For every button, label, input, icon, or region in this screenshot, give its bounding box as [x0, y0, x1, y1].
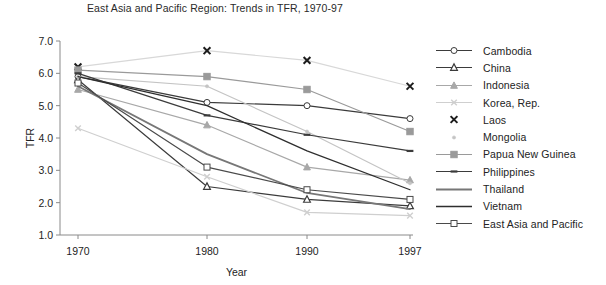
x-tick-label: 1990	[295, 245, 319, 257]
y-tick-label: 2.0	[38, 197, 53, 209]
legend-label: Philippines	[476, 166, 535, 178]
legend-marker-icon	[432, 111, 476, 128]
legend-marker-icon	[432, 59, 476, 76]
x-tick-label: 1997	[398, 245, 422, 257]
legend-label: Mongolia	[476, 131, 526, 143]
legend-label: Cambodia	[476, 45, 532, 57]
chart-figure: East Asia and Pacific Region: Trends in …	[0, 0, 606, 285]
legend-marker-icon	[432, 181, 476, 198]
legend-marker-icon	[432, 215, 476, 232]
legend-item-thailand[interactable]: Thailand	[432, 180, 604, 197]
series-china	[75, 76, 414, 209]
legend-item-mongolia[interactable]: Mongolia	[432, 128, 604, 145]
legend-item-cambodia[interactable]: Cambodia	[432, 42, 604, 59]
legend-label: China	[476, 62, 511, 74]
legend-marker-icon	[432, 42, 476, 59]
y-axis-title: TFR	[24, 127, 36, 148]
x-axis-title: Year	[226, 266, 248, 278]
legend-label: Korea, Rep.	[476, 97, 540, 109]
legend-label: Indonesia	[476, 79, 529, 91]
legend-item-east-asia-and-pacific[interactable]: East Asia and Pacific	[432, 215, 604, 232]
legend-marker-icon	[432, 198, 476, 215]
legend-label: East Asia and Pacific	[476, 218, 583, 230]
legend-marker-icon	[432, 77, 476, 94]
legend-label: Laos	[476, 114, 506, 126]
legend-item-laos[interactable]: Laos	[432, 111, 604, 128]
legend-item-korea-rep[interactable]: Korea, Rep.	[432, 94, 604, 111]
data-series-layer	[75, 47, 414, 218]
series-vietnam	[78, 77, 410, 190]
series-laos	[75, 47, 414, 89]
legend-marker-icon	[432, 163, 476, 180]
legend-item-papua-new-guinea[interactable]: Papua New Guinea	[432, 146, 604, 163]
y-tick-label: 5.0	[38, 100, 53, 112]
legend-item-vietnam[interactable]: Vietnam	[432, 198, 604, 215]
legend-item-philippines[interactable]: Philippines	[432, 163, 604, 180]
legend-label: Thailand	[476, 183, 524, 195]
x-tick-label: 1970	[66, 245, 90, 257]
y-tick-label: 3.0	[38, 164, 53, 176]
x-tick-label: 1980	[195, 245, 219, 257]
axes: 1.02.03.04.05.06.07.01970198019901997	[38, 35, 421, 257]
legend-label: Vietnam	[476, 200, 522, 212]
legend-label: Papua New Guinea	[476, 148, 576, 160]
y-tick-label: 4.0	[38, 132, 53, 144]
legend-item-china[interactable]: China	[432, 59, 604, 76]
legend-marker-icon	[432, 146, 476, 163]
y-tick-label: 6.0	[38, 67, 53, 79]
legend-marker-icon	[432, 94, 476, 111]
chart-legend: CambodiaChinaIndonesiaKorea, Rep.LaosMon…	[432, 42, 604, 232]
legend-item-indonesia[interactable]: Indonesia	[432, 77, 604, 94]
y-tick-label: 1.0	[38, 229, 53, 241]
legend-marker-icon	[432, 129, 476, 146]
series-papua-new-guinea	[75, 67, 413, 135]
y-tick-label: 7.0	[38, 35, 53, 47]
